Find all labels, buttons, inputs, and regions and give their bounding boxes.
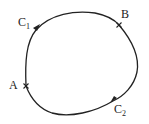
point-b-marker-icon	[117, 23, 122, 28]
point-a-label: A	[9, 78, 18, 92]
path-c1	[26, 12, 119, 86]
point-b-label: B	[121, 7, 129, 21]
path-c2-label: C2	[114, 102, 126, 118]
contour-diagram: A B C1 C2	[0, 0, 149, 124]
path-c1-label: C1	[18, 15, 30, 31]
